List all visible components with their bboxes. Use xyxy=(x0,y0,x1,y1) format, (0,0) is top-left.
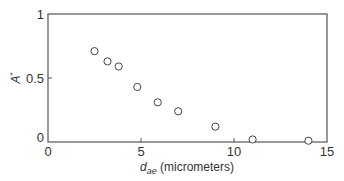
data-point-marker xyxy=(104,58,111,65)
x-tick-label: 5 xyxy=(137,144,144,159)
x-tick-label: 10 xyxy=(227,144,241,159)
y-tick-label: 0 xyxy=(37,130,44,145)
data-point-marker xyxy=(134,83,141,90)
y-axis-label-sup: * xyxy=(8,72,17,75)
data-point-marker xyxy=(154,99,161,106)
data-points xyxy=(91,48,312,145)
data-point-marker xyxy=(175,108,182,115)
scatter-chart: 05101500.51 dae (micrometers) A* xyxy=(0,0,344,181)
data-point-marker xyxy=(115,63,122,70)
data-point-marker xyxy=(249,136,256,143)
x-tick-label: 0 xyxy=(44,144,51,159)
y-tick-label: 1 xyxy=(37,7,44,22)
data-point-marker xyxy=(305,137,312,144)
data-point-marker xyxy=(212,123,219,130)
y-tick-label: 0.5 xyxy=(26,71,44,86)
axis-ticks: 05101500.51 xyxy=(26,7,334,159)
x-axis-label-rest: (micrometers) xyxy=(157,160,234,174)
x-axis-label-sub: ae xyxy=(147,166,157,176)
y-axis-label-main: A xyxy=(9,76,23,85)
plot-frame xyxy=(48,14,327,142)
x-axis-label: dae (micrometers) xyxy=(140,160,234,176)
plot-area-border xyxy=(48,14,327,142)
x-tick-label: 15 xyxy=(320,144,334,159)
y-axis-label: A* xyxy=(8,72,23,84)
data-point-marker xyxy=(91,48,98,55)
